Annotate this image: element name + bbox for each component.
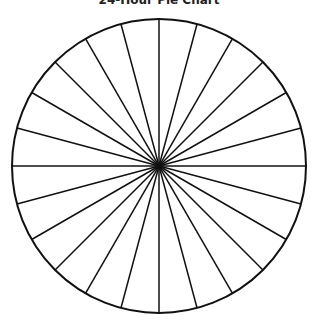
pie-chart <box>0 0 314 327</box>
